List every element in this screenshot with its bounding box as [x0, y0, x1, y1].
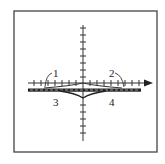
diagram-figure: 1 2 3 4	[0, 0, 165, 164]
x-axis-arrowhead-icon	[144, 80, 153, 87]
leader-line-2	[115, 73, 124, 87]
label-4: 4	[109, 96, 115, 108]
frame-border	[14, 11, 157, 152]
label-3: 3	[53, 96, 59, 108]
label-2: 2	[109, 67, 115, 79]
thick-band	[28, 89, 141, 92]
label-1: 1	[53, 67, 59, 79]
